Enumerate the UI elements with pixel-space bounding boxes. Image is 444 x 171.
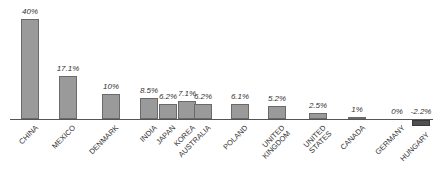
category-label: HUNGARY bbox=[399, 131, 431, 163]
category-label: DENMARK bbox=[88, 124, 120, 156]
bar-mexico bbox=[59, 76, 77, 119]
category-label: UNITEDSTATES bbox=[302, 124, 333, 155]
bar-denmark bbox=[102, 94, 120, 119]
bar-united-kingdom bbox=[268, 106, 286, 119]
category-label: CANADA bbox=[339, 124, 367, 152]
value-label: 6.2% bbox=[148, 92, 188, 101]
bar-poland bbox=[231, 104, 249, 119]
bar-australia bbox=[194, 104, 212, 120]
category-label: UNITEDKINGDOM bbox=[256, 124, 293, 161]
value-label: 17.1% bbox=[48, 64, 88, 73]
bar-japan bbox=[159, 104, 177, 120]
bar-hungary bbox=[412, 120, 430, 126]
category-label: CHINA bbox=[17, 124, 39, 146]
bar-china bbox=[21, 19, 39, 119]
value-label: 6.2% bbox=[183, 92, 223, 101]
bar-india bbox=[140, 98, 158, 119]
value-label: 1% bbox=[337, 105, 377, 114]
bar-canada bbox=[348, 117, 366, 120]
value-label: 10% bbox=[91, 82, 131, 91]
bar-chart: 40%CHINA17.1%MEXICO10%DENMARK8.5%INDIA7.… bbox=[0, 0, 444, 171]
value-label: 6.1% bbox=[220, 92, 260, 101]
value-label: 2.5% bbox=[298, 101, 338, 110]
x-axis-line bbox=[10, 119, 433, 120]
category-label: MEXICO bbox=[51, 124, 78, 151]
value-label: -2.2% bbox=[401, 107, 441, 116]
value-label: 5.2% bbox=[257, 94, 297, 103]
category-label: POLAND bbox=[222, 124, 249, 151]
bar-united-states bbox=[309, 113, 327, 119]
value-label: 40% bbox=[10, 7, 50, 16]
